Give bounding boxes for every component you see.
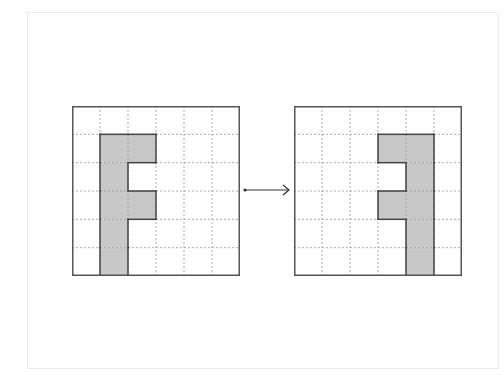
shaded-cell: [128, 191, 156, 219]
shaded-cell: [100, 191, 128, 219]
shaded-cell: [406, 134, 434, 162]
shaded-cell: [100, 134, 128, 162]
shaded-cell: [406, 191, 434, 219]
shaded-cell: [378, 191, 406, 219]
shaded-cell: [100, 219, 128, 247]
shaded-cell: [100, 163, 128, 191]
transform-arrow: [243, 182, 293, 198]
shaded-cell: [128, 134, 156, 162]
arrow-right-icon: [243, 182, 293, 198]
shaded-cell: [406, 248, 434, 276]
shaded-cell: [100, 248, 128, 276]
shaded-cell: [378, 134, 406, 162]
shaded-cell: [406, 163, 434, 191]
shaded-cell: [406, 219, 434, 247]
right-grid-reflected: [294, 106, 462, 276]
left-grid-original: [72, 106, 240, 276]
